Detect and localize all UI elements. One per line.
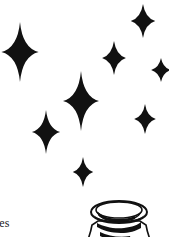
sparkle-star-icon bbox=[0, 22, 50, 82]
jar-body-group bbox=[87, 201, 151, 237]
sparkle-star-icon bbox=[68, 157, 98, 187]
jar-illustration bbox=[84, 198, 154, 237]
caption-text: les bbox=[0, 216, 9, 230]
sparkle-star-icon bbox=[149, 58, 169, 82]
sparkle-star-icon bbox=[126, 4, 160, 38]
sparkle-star-icon bbox=[97, 41, 131, 75]
sparkle-star-icon bbox=[130, 104, 160, 134]
illustration-page: les bbox=[0, 0, 169, 237]
sparkle-star-icon bbox=[24, 110, 68, 154]
